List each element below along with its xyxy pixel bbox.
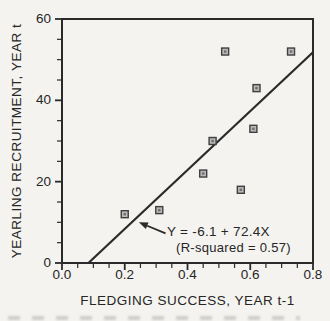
- data-point-center: [255, 87, 257, 89]
- x-tick-label: 0.6: [234, 267, 266, 283]
- data-point-center: [290, 50, 292, 52]
- x-axis-title: FLEDGING SUCCESS, YEAR t-1: [62, 293, 313, 308]
- scatter-plot-figure: YEARLING RECRUITMENT, YEAR t FLEDGING SU…: [0, 0, 330, 321]
- data-point-center: [211, 140, 213, 142]
- x-tick-label: 0.8: [297, 267, 329, 283]
- x-tick-label: 0.4: [172, 267, 204, 283]
- y-tick-label: 20: [36, 174, 51, 190]
- annotation-arrow-line: [147, 226, 165, 234]
- y-tick-label: 0: [43, 255, 51, 271]
- y-tick-label: 40: [36, 92, 51, 108]
- data-point-center: [224, 50, 226, 52]
- x-tick-label: 0.2: [109, 267, 141, 283]
- data-point-center: [252, 128, 254, 130]
- annotation-arrow-head: [139, 222, 149, 229]
- data-point-center: [240, 189, 242, 191]
- data-point-center: [202, 172, 204, 174]
- data-point-center: [158, 209, 160, 211]
- r-squared-label: (R-squared = 0.57): [176, 240, 291, 255]
- regression-equation-label: Y = -6.1 + 72.4X: [167, 224, 270, 239]
- y-axis-title: YEARLING RECRUITMENT, YEAR t: [9, 24, 24, 258]
- scan-artifact: [8, 316, 300, 320]
- y-tick-label: 60: [36, 11, 51, 27]
- data-point-center: [124, 213, 126, 215]
